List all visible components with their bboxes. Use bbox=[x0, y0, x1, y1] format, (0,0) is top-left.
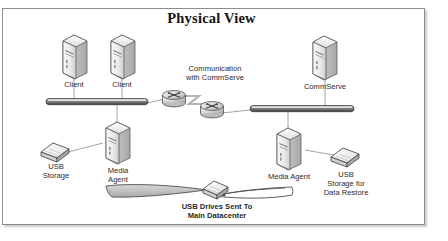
node-usb-storage-right[interactable] bbox=[312, 146, 362, 194]
node-router-2[interactable] bbox=[199, 100, 225, 119]
page-title: Physical View bbox=[0, 10, 423, 27]
node-usb-drive-transit[interactable] bbox=[201, 179, 231, 201]
label-transit: USB Drives Sent To Main Datacenter bbox=[125, 202, 309, 220]
node-client-1[interactable] bbox=[60, 33, 90, 89]
node-network-bar-left[interactable] bbox=[46, 97, 149, 106]
node-client-2[interactable] bbox=[108, 33, 138, 89]
label-communication: Communication with CommServe bbox=[168, 64, 262, 82]
node-usb-storage-left[interactable] bbox=[30, 141, 72, 181]
node-media-agent-left[interactable] bbox=[103, 120, 133, 182]
node-network-bar-right[interactable] bbox=[250, 104, 355, 113]
node-media-agent-right[interactable] bbox=[274, 126, 304, 182]
node-router-1[interactable] bbox=[161, 89, 187, 108]
node-commserve[interactable] bbox=[310, 34, 340, 92]
diagram-canvas: Physical View bbox=[0, 0, 448, 241]
